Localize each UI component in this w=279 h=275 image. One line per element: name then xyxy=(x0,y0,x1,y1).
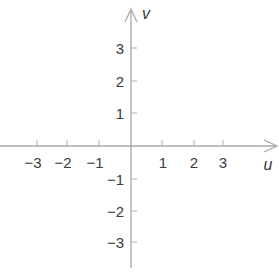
u-axis: −3 −2 −1 1 2 3 u xyxy=(0,140,277,173)
tick-label-u-neg1: −1 xyxy=(86,154,103,171)
tick-label-u-3: 3 xyxy=(219,154,227,171)
tick-label-v-1: 1 xyxy=(116,105,124,122)
tick-label-v-3: 3 xyxy=(116,40,124,57)
tick-label-u-2: 2 xyxy=(190,154,198,171)
coordinate-plane: −3 −2 −1 1 2 3 u 3 2 1 −1 −2 −3 v xyxy=(0,0,279,275)
tick-label-v-neg1: −1 xyxy=(107,171,124,188)
tick-label-u-1: 1 xyxy=(159,154,167,171)
v-axis: 3 2 1 −1 −2 −3 v xyxy=(107,5,151,268)
u-axis-label: u xyxy=(264,156,273,173)
tick-label-u-neg2: −2 xyxy=(54,154,71,171)
tick-label-u-neg3: −3 xyxy=(24,154,41,171)
v-axis-label: v xyxy=(142,5,151,22)
tick-label-v-neg3: −3 xyxy=(107,234,124,251)
tick-label-v-2: 2 xyxy=(116,73,124,90)
tick-label-v-neg2: −2 xyxy=(107,203,124,220)
